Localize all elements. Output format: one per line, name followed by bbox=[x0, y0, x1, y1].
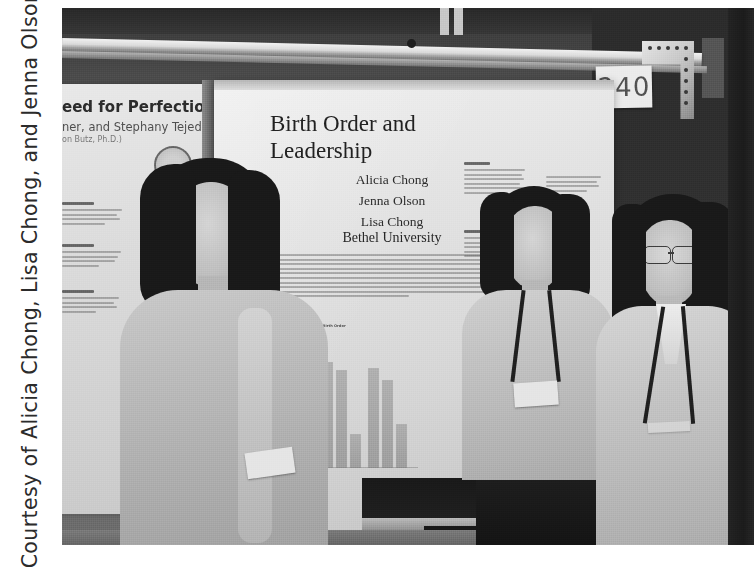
wall-right-edge bbox=[728, 8, 754, 545]
person-middle-hair-front-left bbox=[480, 192, 514, 300]
bracket-holes bbox=[646, 44, 692, 116]
photo-credit-text: Courtesy of Alicia Chong, Lisa Chong, an… bbox=[18, 0, 42, 568]
chart-bar bbox=[382, 380, 393, 468]
poster-left-authors: ner, and Stephany Tejeda bbox=[62, 120, 212, 134]
chart-bar bbox=[350, 434, 361, 468]
chart-bar bbox=[396, 424, 407, 468]
poster-title-line1: Birth Order and bbox=[270, 110, 500, 137]
photo-credit: Courtesy of Alicia Chong, Lisa Chong, an… bbox=[0, 0, 60, 557]
person-left-cardigan bbox=[120, 290, 328, 545]
person-middle-name-badge bbox=[513, 380, 559, 407]
eyeglasses-icon-bridge bbox=[668, 252, 674, 254]
poster-left-text-block-3 bbox=[62, 290, 124, 315]
poster-left-title: eed for Perfection bbox=[62, 98, 210, 116]
chart-bar bbox=[336, 370, 347, 468]
poster-title: Birth Order and Leadership bbox=[270, 110, 500, 164]
person-left-scarf bbox=[238, 308, 272, 543]
poster-top-band bbox=[214, 80, 614, 90]
person-left bbox=[120, 158, 330, 545]
chart-bar bbox=[368, 368, 379, 468]
person-middle-pants bbox=[476, 474, 602, 545]
poster-left-text-block-2 bbox=[62, 244, 124, 269]
poster-left-advisor: on Butz, Ph.D.) bbox=[62, 135, 122, 144]
ceiling-slot-2 bbox=[454, 8, 463, 35]
ceiling-slot-1 bbox=[440, 8, 449, 35]
photograph: 240 eed for Perfection ner, and Stephany… bbox=[62, 8, 754, 545]
poster-left-text-block-1 bbox=[62, 202, 124, 227]
eyeglasses-icon-left-lens bbox=[644, 246, 671, 264]
